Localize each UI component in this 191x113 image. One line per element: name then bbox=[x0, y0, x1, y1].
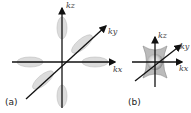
kx-label-b: kx bbox=[179, 64, 188, 73]
kx-label-a: kx bbox=[113, 65, 122, 74]
panel-a-label: (a) bbox=[5, 97, 18, 107]
panel-b-label: (b) bbox=[128, 97, 141, 107]
kz-label-b: kz bbox=[158, 31, 167, 40]
kz-label-a: kz bbox=[66, 1, 75, 10]
ky-label-b: ky bbox=[180, 42, 189, 51]
diagram bbox=[0, 0, 191, 113]
ky-label-a: ky bbox=[108, 27, 117, 36]
axes-b bbox=[132, 37, 182, 87]
